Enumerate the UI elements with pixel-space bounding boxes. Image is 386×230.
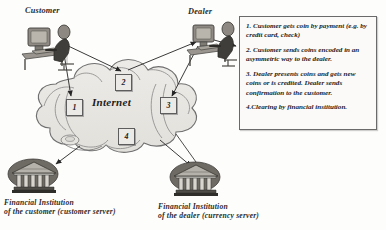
dealer-label: Dealer <box>188 7 212 16</box>
legend-step-list: 1. Customer gets coin by payment (e.g. b… <box>246 22 371 112</box>
bank-building-icon <box>6 157 64 197</box>
dealer-bank-icon-wrap <box>168 160 226 200</box>
legend-step-1: 1. Customer gets coin by payment (e.g. b… <box>246 22 371 41</box>
legend-panel: 1. Customer gets coin by payment (e.g. b… <box>239 16 377 130</box>
step-marker-1: 1 <box>66 99 83 116</box>
diagram-canvas: Internet <box>0 0 386 230</box>
legend-step-4: 4.Clearing by financial institution. <box>246 103 371 112</box>
workstation-icon <box>20 20 78 72</box>
customer-workstation <box>20 20 78 72</box>
dealer-bank-label-line1: Financial Institution <box>158 202 228 211</box>
step-marker-4: 4 <box>118 128 135 145</box>
bank-building-icon <box>168 160 226 200</box>
customer-bank-icon-wrap <box>6 157 64 197</box>
internet-label: Internet <box>92 96 131 108</box>
workstation-icon <box>185 18 241 68</box>
dealer-bank-label: Financial Institution of the dealer (cur… <box>158 203 259 220</box>
dealer-workstation <box>185 18 241 68</box>
customer-bank-label: Financial Institution of the customer (c… <box>4 199 116 216</box>
step-marker-2: 2 <box>115 74 132 91</box>
legend-step-3: 3. Dealer presents coins and gets new co… <box>246 70 371 98</box>
customer-label: Customer <box>25 6 60 15</box>
customer-bank-label-line2: of the customer (customer server) <box>4 208 116 217</box>
customer-bank-label-line1: Financial Institution <box>4 198 74 207</box>
step-marker-3: 3 <box>160 97 177 114</box>
dealer-bank-label-line2: of the dealer (currency server) <box>158 212 259 221</box>
legend-step-2: 2. Customer sends coins encoded in an as… <box>246 46 371 65</box>
